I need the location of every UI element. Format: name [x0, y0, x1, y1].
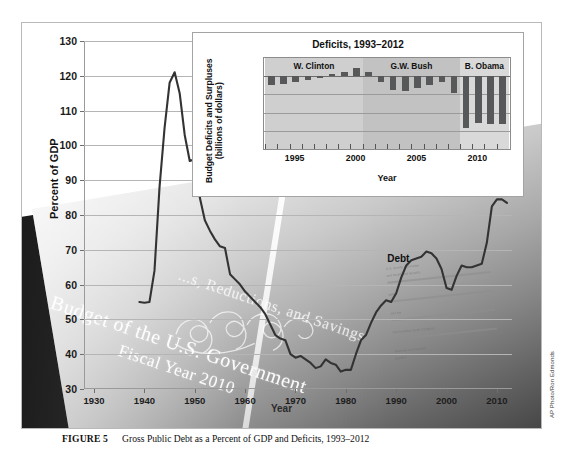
- inset-x-tick-mark: [265, 144, 266, 149]
- inset-president-band: W. Clinton: [265, 58, 362, 149]
- inset-x-tick-mark: [497, 144, 498, 149]
- x-tick-mark: [447, 389, 448, 393]
- inset-bar: [402, 76, 409, 91]
- x-tick-mark: [245, 389, 246, 393]
- inset-bar: [268, 76, 275, 85]
- inset-bar: [365, 72, 372, 77]
- figure-caption-label: FIGURE 5: [62, 433, 108, 444]
- inset-plot-area: W. ClintonG.W. BushB. Obama5000–500–1000…: [263, 57, 511, 150]
- x-tick-mark: [396, 389, 397, 393]
- inset-y-tick-mark: [263, 113, 264, 114]
- inset-bar: [292, 76, 299, 82]
- inset-bar: [341, 72, 348, 77]
- inset-x-tick-mark: [314, 144, 315, 149]
- inset-x-tick-mark: [436, 144, 437, 149]
- inset-bar: [353, 68, 360, 77]
- y-tick-label: 30: [65, 383, 77, 395]
- inset-president-band-label: G.W. Bush: [363, 61, 460, 71]
- main-x-axis-title: Year: [22, 403, 541, 414]
- inset-x-axis-title: Year: [263, 173, 511, 183]
- inset-bar: [451, 76, 458, 93]
- inset-x-tick-label: 2010: [468, 153, 488, 163]
- inset-x-tick-mark: [338, 144, 339, 149]
- inset-x-tick-mark: [387, 144, 388, 149]
- figure-caption-text: Gross Public Debt as a Percent of GDP an…: [122, 433, 369, 444]
- inset-y-tick-mark: [263, 149, 264, 150]
- inset-bar: [414, 76, 421, 88]
- inset-bar: [280, 76, 287, 83]
- inset-y-axis-title: Budget Deficits and Surpluses (billions …: [205, 58, 224, 183]
- x-tick-mark: [195, 389, 196, 393]
- inset-bar: [317, 76, 324, 78]
- inset-y-axis-title-line2: (billions of dollars): [214, 82, 224, 159]
- inset-x-tick-label: 2005: [407, 153, 427, 163]
- inset-x-tick-mark: [472, 144, 473, 149]
- figure-frame: U.S. Senate Committee and Health and Ben…: [21, 22, 542, 429]
- x-tick-mark: [497, 389, 498, 393]
- inset-x-tick-label: 1995: [285, 153, 305, 163]
- inset-x-tick-mark: [350, 144, 351, 149]
- inset-x-tick-mark: [326, 144, 327, 149]
- y-tick-label: 110: [60, 105, 77, 117]
- inset-x-tick-mark: [484, 144, 485, 149]
- x-tick-mark: [94, 389, 95, 393]
- inset-zero-line: [264, 76, 510, 77]
- inset-x-tick-mark: [448, 144, 449, 149]
- inset-x-tick-mark: [399, 144, 400, 149]
- inset-x-tick-label: 2000: [346, 153, 366, 163]
- inset-bar: [329, 74, 336, 77]
- x-tick-mark: [144, 389, 145, 393]
- y-tick-mark: [80, 389, 84, 390]
- y-tick-label: 100: [59, 139, 77, 151]
- y-tick-label: 90: [65, 174, 77, 186]
- inset-bar: [378, 76, 385, 82]
- inset-y-tick-mark: [263, 94, 264, 95]
- inset-bar: [305, 76, 312, 80]
- inset-x-tick-mark: [363, 144, 364, 149]
- inset-x-tick-mark: [277, 144, 278, 149]
- figure-root: U.S. Senate Committee and Health and Ben…: [0, 0, 563, 450]
- series-label-debt: Debt: [387, 253, 409, 264]
- y-tick-label: 50: [65, 313, 77, 325]
- inset-gridline: [264, 94, 510, 95]
- y-tick-label: 130: [59, 35, 77, 47]
- inset-bar: [426, 76, 433, 85]
- x-tick-mark: [346, 389, 347, 393]
- inset-bar: [439, 76, 446, 82]
- main-y-axis-title: Percent of GDP: [48, 138, 60, 219]
- figure-caption: FIGURE 5Gross Public Debt as a Percent o…: [62, 433, 502, 444]
- inset-president-band: G.W. Bush: [363, 58, 460, 149]
- inset-x-tick-mark: [424, 144, 425, 149]
- x-tick-mark: [295, 389, 296, 393]
- inset-gridline: [264, 113, 510, 114]
- inset-president-band-label: W. Clinton: [265, 61, 362, 71]
- inset-y-tick-mark: [263, 131, 264, 132]
- inset-x-tick-mark: [375, 144, 376, 149]
- inset-gridline: [264, 131, 510, 132]
- inset-bar: [487, 76, 494, 123]
- y-tick-label: 70: [65, 244, 77, 256]
- inset-x-tick-mark: [411, 144, 412, 149]
- inset-bar: [475, 76, 482, 123]
- inset-president-band-label: B. Obama: [460, 61, 509, 71]
- y-tick-label: 80: [65, 209, 77, 221]
- inset-x-tick-mark: [290, 144, 291, 149]
- inset-deficits-chart: Deficits, 1993–2012 Budget Deficits and …: [192, 32, 524, 197]
- inset-bar: [499, 76, 506, 124]
- y-tick-label: 40: [65, 348, 77, 360]
- inset-x-tick-mark: [302, 144, 303, 149]
- inset-chart-title: Deficits, 1993–2012: [193, 39, 523, 50]
- inset-bar: [463, 76, 470, 127]
- photo-credit: AP Photo/Ron Edmonds: [549, 351, 555, 418]
- inset-y-tick-mark: [263, 58, 264, 59]
- y-tick-label: 60: [65, 279, 77, 291]
- y-tick-label: 120: [59, 70, 77, 82]
- inset-x-tick-mark: [460, 144, 461, 149]
- inset-bar: [390, 76, 397, 90]
- inset-y-axis-title-line1: Budget Deficits and Surpluses: [204, 58, 214, 183]
